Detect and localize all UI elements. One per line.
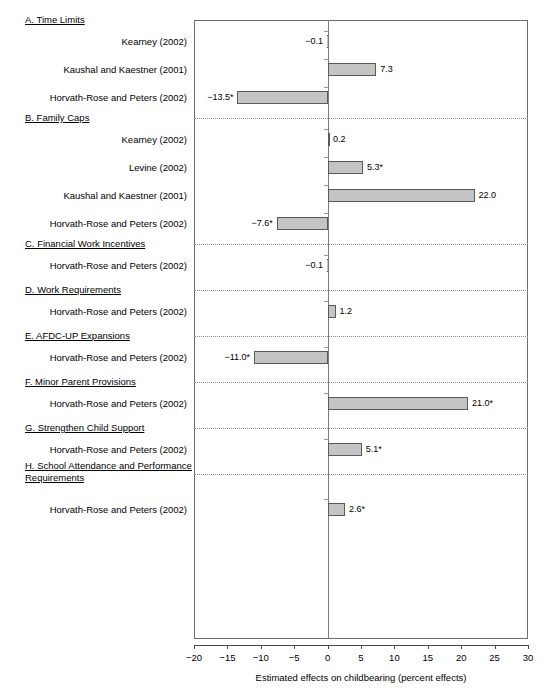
bar-value-label: −11.0* xyxy=(0,352,250,363)
plot-area xyxy=(194,20,528,639)
section-heading-line: D. Work Requirements xyxy=(25,284,121,295)
bar-value-label: 5.1* xyxy=(366,444,382,455)
axis-row-tick xyxy=(324,213,328,214)
x-axis-tick xyxy=(194,645,195,649)
x-axis-tick xyxy=(328,645,329,649)
axis-row-tick xyxy=(324,59,328,60)
bar-value-label: 5.3* xyxy=(367,162,383,173)
axis-row-tick xyxy=(324,157,328,158)
bar xyxy=(328,397,468,410)
bar-value-label: 2.6* xyxy=(349,504,365,515)
axis-row-tick xyxy=(324,87,328,88)
bar-value-label: −13.5* xyxy=(0,92,233,103)
axis-row-tick xyxy=(324,129,328,130)
bar-value-label: 1.2 xyxy=(340,306,353,317)
section-separator xyxy=(194,382,528,383)
section-heading-line: H. School Attendance and Performance xyxy=(25,460,192,471)
x-axis-tick xyxy=(428,645,429,649)
section-separator xyxy=(194,336,528,337)
section-heading-line: C. Financial Work Incentives xyxy=(25,238,145,249)
section-heading-line: G. Strengthen Child Support xyxy=(25,422,144,433)
study-label: Kaushal and Kaestner (2001) xyxy=(63,190,187,201)
bar-value-label: 0.2 xyxy=(333,134,346,145)
section-heading-g: G. Strengthen Child Support xyxy=(25,422,144,434)
section-separator xyxy=(194,244,528,245)
bar xyxy=(328,189,475,202)
section-separator xyxy=(194,290,528,291)
axis-row-tick xyxy=(324,439,328,440)
bar xyxy=(254,351,327,364)
x-axis-tick xyxy=(461,645,462,649)
x-axis-tick xyxy=(528,645,529,649)
x-axis-tick xyxy=(227,645,228,649)
study-label: Kaushal and Kaestner (2001) xyxy=(63,64,187,75)
bar xyxy=(327,35,328,48)
section-heading-line: B. Family Caps xyxy=(25,112,89,123)
axis-row-tick xyxy=(324,393,328,394)
chart-figure: A. Time LimitsKearney (2002)−0.1Kaushal … xyxy=(0,0,550,694)
bar xyxy=(328,133,330,146)
section-separator xyxy=(194,428,528,429)
section-heading-c: C. Financial Work Incentives xyxy=(25,238,145,250)
x-axis-tick xyxy=(495,645,496,649)
bar-value-label: −0.1 xyxy=(0,36,323,47)
bar xyxy=(327,259,328,272)
axis-row-tick xyxy=(324,347,328,348)
bar xyxy=(328,161,363,174)
section-heading-e: E. AFDC-UP Expansions xyxy=(25,330,130,342)
section-heading-line: F. Minor Parent Provisions xyxy=(25,376,136,387)
section-heading-line: Requirements xyxy=(25,472,84,483)
section-separator xyxy=(194,474,528,475)
axis-row-tick xyxy=(324,499,328,500)
section-heading-f: F. Minor Parent Provisions xyxy=(25,376,136,388)
bar xyxy=(237,91,327,104)
x-axis-tick xyxy=(394,645,395,649)
axis-row-tick xyxy=(324,185,328,186)
section-heading-b: B. Family Caps xyxy=(25,112,89,124)
study-label: Horvath-Rose and Peters (2002) xyxy=(50,504,187,515)
study-label: Kearney (2002) xyxy=(122,134,187,145)
study-label: Horvath-Rose and Peters (2002) xyxy=(50,444,187,455)
bar-value-label: 21.0* xyxy=(472,398,493,409)
bar xyxy=(328,443,362,456)
x-axis-title: Estimated effects on childbearing (perce… xyxy=(194,672,528,684)
study-label: Levine (2002) xyxy=(129,162,187,173)
bar xyxy=(328,503,345,516)
study-label: Horvath-Rose and Peters (2002) xyxy=(50,306,187,317)
section-heading-line: E. AFDC-UP Expansions xyxy=(25,330,130,341)
section-heading-line: A. Time Limits xyxy=(25,14,85,25)
x-axis-tick xyxy=(361,645,362,649)
bar-value-label: −7.6* xyxy=(0,218,273,229)
section-separator xyxy=(194,118,528,119)
axis-row-tick xyxy=(324,31,328,32)
axis-row-tick xyxy=(324,255,328,256)
zero-reference-line xyxy=(328,20,329,639)
axis-row-tick xyxy=(324,301,328,302)
bar xyxy=(277,217,328,230)
x-axis-tick xyxy=(294,645,295,649)
bar-value-label: 22.0 xyxy=(479,190,497,201)
x-axis-tick xyxy=(261,645,262,649)
x-axis-tick-label: 30 xyxy=(508,652,548,663)
section-heading-a: A. Time Limits xyxy=(25,14,85,26)
study-label: Horvath-Rose and Peters (2002) xyxy=(50,398,187,409)
section-heading-d: D. Work Requirements xyxy=(25,284,121,296)
bar xyxy=(328,305,336,318)
bar-value-label: −0.1 xyxy=(0,260,323,271)
bar-value-label: 7.3 xyxy=(380,64,393,75)
section-heading-h: H. School Attendance and PerformanceRequ… xyxy=(25,460,192,484)
bar xyxy=(328,63,377,76)
